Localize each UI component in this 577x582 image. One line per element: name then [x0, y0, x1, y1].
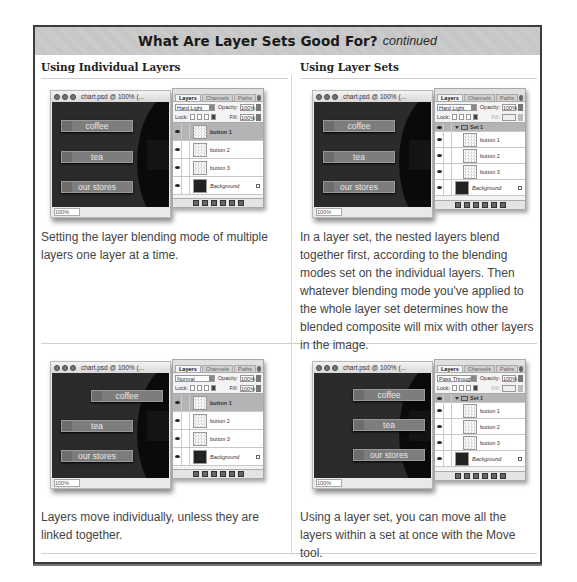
- link-icon[interactable]: [444, 403, 452, 418]
- zoom-level[interactable]: 100%: [316, 479, 342, 487]
- eye-icon[interactable]: [435, 180, 444, 195]
- layer-row[interactable]: button 3: [173, 159, 263, 177]
- layer-row[interactable]: Background: [435, 451, 525, 467]
- mask-icon[interactable]: [464, 473, 470, 479]
- opacity-arrow-icon[interactable]: [256, 375, 261, 382]
- tab-paths[interactable]: Paths: [496, 94, 518, 101]
- adjustment-icon[interactable]: [482, 202, 488, 208]
- lock-transparency-icon[interactable]: [452, 385, 457, 391]
- link-icon[interactable]: [444, 123, 452, 131]
- opacity-arrow-icon[interactable]: [256, 104, 261, 111]
- tab-channels[interactable]: Channels: [202, 365, 233, 372]
- fill-arrow-icon[interactable]: [256, 385, 261, 392]
- opacity-field[interactable]: 100%: [240, 104, 254, 111]
- layer-style-icon[interactable]: [455, 473, 461, 479]
- opacity-field[interactable]: 100%: [240, 375, 254, 382]
- layer-style-icon[interactable]: [193, 200, 199, 206]
- mask-icon[interactable]: [202, 471, 208, 477]
- layer-row[interactable]: button 2: [173, 141, 263, 159]
- link-icon[interactable]: [182, 177, 190, 194]
- eye-icon[interactable]: [435, 419, 444, 434]
- fill-arrow-icon[interactable]: [256, 114, 261, 121]
- blend-mode-select[interactable]: Hard Light: [175, 104, 215, 111]
- new-set-icon[interactable]: [211, 471, 217, 477]
- layer-row[interactable]: button 2: [435, 419, 525, 435]
- opacity-arrow-icon[interactable]: [518, 104, 523, 111]
- eye-icon[interactable]: [173, 141, 182, 158]
- tab-channels[interactable]: Channels: [202, 94, 233, 101]
- lock-transparency-icon[interactable]: [190, 385, 195, 391]
- eye-icon[interactable]: [173, 430, 182, 447]
- tab-paths[interactable]: Paths: [496, 365, 518, 372]
- link-icon[interactable]: [444, 132, 452, 147]
- blend-mode-select[interactable]: Pass Through: [437, 375, 477, 382]
- new-layer-icon[interactable]: [491, 202, 497, 208]
- lock-image-icon[interactable]: [197, 385, 202, 391]
- trash-icon[interactable]: [238, 471, 244, 477]
- tab-layers[interactable]: Layers: [437, 94, 463, 101]
- layer-row[interactable]: button 3: [435, 435, 525, 451]
- brush-icon[interactable]: [182, 123, 190, 140]
- minimize-icon[interactable]: [62, 365, 68, 371]
- eye-icon[interactable]: [173, 394, 182, 411]
- eye-icon[interactable]: [173, 412, 182, 429]
- lock-position-icon[interactable]: [466, 114, 471, 120]
- link-icon[interactable]: [182, 412, 190, 429]
- eye-icon[interactable]: [435, 164, 444, 179]
- new-layer-icon[interactable]: [491, 473, 497, 479]
- layer-row[interactable]: button 3: [435, 164, 525, 180]
- lock-position-icon[interactable]: [204, 385, 209, 391]
- new-set-icon[interactable]: [473, 202, 479, 208]
- zoom-level[interactable]: 100%: [54, 208, 80, 216]
- eye-icon[interactable]: [173, 448, 182, 465]
- zoom-icon[interactable]: [70, 365, 76, 371]
- tab-channels[interactable]: Channels: [464, 365, 495, 372]
- new-set-icon[interactable]: [473, 473, 479, 479]
- zoom-icon[interactable]: [332, 94, 338, 100]
- minimize-icon[interactable]: [324, 365, 330, 371]
- trash-icon[interactable]: [238, 200, 244, 206]
- layer-row[interactable]: Background: [435, 180, 525, 196]
- lock-position-icon[interactable]: [466, 385, 471, 391]
- tab-layers[interactable]: Layers: [175, 365, 201, 372]
- expand-triangle-icon[interactable]: [455, 397, 459, 400]
- link-icon[interactable]: [182, 430, 190, 447]
- close-icon[interactable]: [316, 365, 322, 371]
- layer-row[interactable]: button 2: [435, 148, 525, 164]
- lock-image-icon[interactable]: [197, 114, 202, 120]
- trash-icon[interactable]: [500, 202, 506, 208]
- eye-icon[interactable]: [435, 123, 444, 131]
- lock-image-icon[interactable]: [459, 114, 464, 120]
- minimize-icon[interactable]: [62, 94, 68, 100]
- layer-row[interactable]: button 3: [173, 430, 263, 448]
- link-icon[interactable]: [444, 164, 452, 179]
- link-icon[interactable]: [444, 180, 452, 195]
- lock-all-icon[interactable]: [473, 114, 478, 120]
- blend-mode-select[interactable]: Normal: [175, 375, 215, 382]
- eye-icon[interactable]: [435, 451, 444, 466]
- eye-icon[interactable]: [435, 394, 444, 402]
- blend-mode-select[interactable]: Hard Light: [437, 104, 477, 111]
- fill-arrow-icon[interactable]: [518, 114, 523, 121]
- link-icon[interactable]: [444, 148, 452, 163]
- zoom-level[interactable]: 100%: [316, 208, 342, 216]
- layer-set-row[interactable]: Set 1: [435, 123, 525, 132]
- layer-row[interactable]: button 2: [173, 412, 263, 430]
- opacity-arrow-icon[interactable]: [518, 375, 523, 382]
- opacity-field[interactable]: 100%: [502, 104, 516, 111]
- close-icon[interactable]: [54, 365, 60, 371]
- tab-layers[interactable]: Layers: [175, 94, 201, 101]
- lock-image-icon[interactable]: [459, 385, 464, 391]
- palette-menu-icon[interactable]: [257, 366, 261, 372]
- fill-field[interactable]: 100%: [240, 114, 254, 121]
- fill-field[interactable]: [502, 385, 516, 392]
- lock-all-icon[interactable]: [211, 385, 216, 391]
- link-icon[interactable]: [182, 141, 190, 158]
- layer-row[interactable]: Background: [173, 448, 263, 466]
- new-set-icon[interactable]: [211, 200, 217, 206]
- adjustment-icon[interactable]: [482, 473, 488, 479]
- eye-icon[interactable]: [173, 123, 182, 140]
- layer-set-row[interactable]: Set 1: [435, 394, 525, 403]
- layer-row[interactable]: button 1: [173, 394, 263, 412]
- expand-triangle-icon[interactable]: [455, 126, 459, 129]
